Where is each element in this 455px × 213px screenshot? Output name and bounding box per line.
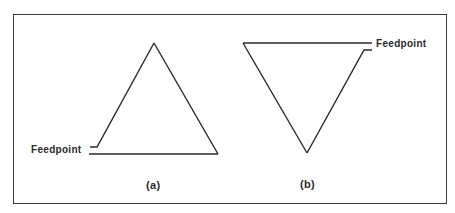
antenna-diagrams (0, 0, 455, 213)
caption-b: (b) (300, 178, 315, 190)
triangle-b-left-leg (243, 43, 307, 153)
triangle-a-left-leg (90, 43, 154, 147)
delta-loop-b (243, 43, 372, 153)
feedpoint-label-a: Feedpoint (31, 144, 81, 155)
caption-a: (a) (146, 179, 160, 191)
triangle-a-right-leg (154, 43, 218, 154)
feedpoint-label-b: Feedpoint (376, 38, 426, 49)
delta-loop-a (89, 43, 218, 154)
triangle-b-right-leg (307, 50, 372, 153)
